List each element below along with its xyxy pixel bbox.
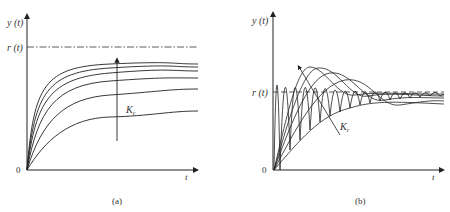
param-label: Kc xyxy=(339,121,350,133)
origin-label: 0 xyxy=(262,165,267,175)
kc-arrow xyxy=(299,67,340,135)
ref-label: r (t) xyxy=(252,87,269,99)
x-axis-label: t xyxy=(432,172,435,182)
ref-label: r (t) xyxy=(7,42,24,54)
response-curves xyxy=(27,63,198,170)
y-axis-label: y (t) xyxy=(6,17,24,29)
figure: y (t) r (t) 0 t Kc (a) y (t) r (t) 0 t K… xyxy=(0,0,450,212)
origin-label: 0 xyxy=(16,165,21,175)
response-curves xyxy=(274,67,444,170)
x-axis-label: t xyxy=(185,172,188,182)
y-axis-label: y (t) xyxy=(251,15,269,27)
param-label: Kc xyxy=(125,104,136,116)
panel-a: y (t) r (t) 0 t Kc (a) xyxy=(6,16,198,206)
caption-a: (a) xyxy=(112,196,122,206)
caption-b: (b) xyxy=(355,196,366,206)
panel-b: y (t) r (t) 0 t Kc (b) xyxy=(251,14,444,206)
